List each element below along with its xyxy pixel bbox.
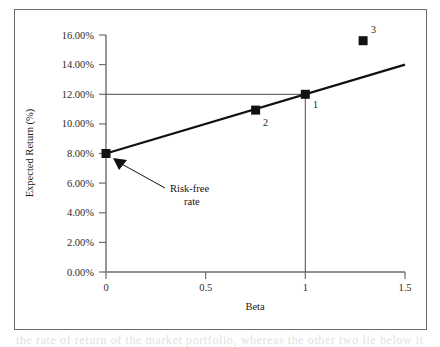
y-tick-label-4: 4.00%: [67, 207, 94, 218]
data-point-3[interactable]: [359, 36, 368, 45]
figure-root: 16.00% 14.00% 12.00% 10.00% 8.00% 6.00% …: [0, 0, 440, 347]
x-tick-label-1point5: 1.5: [398, 282, 411, 293]
data-point-label-3: 3: [371, 24, 376, 35]
x-tick-label-0point5: 0.5: [199, 282, 212, 293]
y-tick-label-8: 8.00%: [67, 148, 94, 159]
y-tick-label-12: 12.00%: [62, 89, 95, 100]
risk-free-rate-label-line1: Risk-free: [170, 183, 209, 194]
risk-free-rate-label-line2: rate: [184, 196, 200, 207]
data-point-1[interactable]: [301, 90, 310, 99]
x-axis: [106, 272, 405, 279]
risk-free-rate-annotation: Risk-free rate: [113, 158, 209, 207]
security-market-line-chart: 16.00% 14.00% 12.00% 10.00% 8.00% 6.00% …: [0, 0, 440, 347]
y-axis-title: Expected Return (%): [24, 108, 36, 197]
page-text-fragment: the rate of return of the market portfol…: [16, 333, 426, 347]
y-tick-label-6: 6.00%: [67, 178, 94, 189]
data-point-label-2: 2: [263, 117, 268, 128]
data-point-label-1: 1: [313, 99, 318, 110]
y-tick-label-0: 0.00%: [67, 267, 94, 278]
x-tick-label-0: 0: [103, 282, 108, 293]
risk-free-rate-leader-line: [118, 162, 165, 188]
y-tick-label-16: 16.00%: [62, 30, 95, 41]
y-tick-label-2: 2.00%: [67, 237, 94, 248]
y-tick-label-14: 14.00%: [62, 59, 95, 70]
arrowhead-icon: [113, 158, 127, 170]
data-point-risk-free[interactable]: [102, 149, 111, 158]
x-axis-title: Beta: [245, 301, 265, 312]
x-tick-label-1: 1: [303, 282, 308, 293]
data-point-2[interactable]: [251, 106, 260, 115]
y-tick-label-10: 10.00%: [62, 118, 95, 129]
